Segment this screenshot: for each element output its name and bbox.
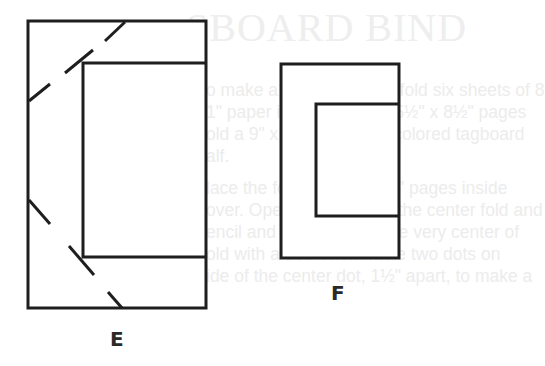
figure-f	[281, 64, 399, 258]
figure-f-label: F	[331, 281, 345, 305]
figure-f-outer-cover	[281, 64, 399, 258]
figure-e	[28, 21, 206, 308]
figure-e-label: E	[110, 327, 124, 351]
